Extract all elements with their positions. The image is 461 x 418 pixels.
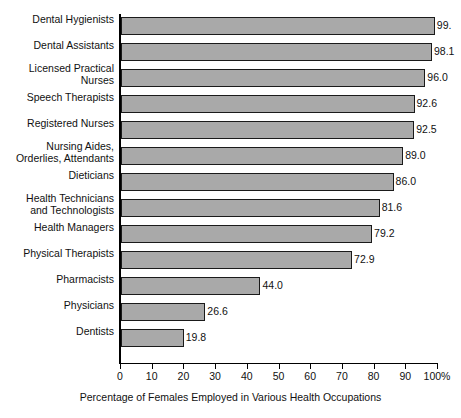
bar-row: Health Managers79.2: [0, 222, 461, 248]
x-tick-label: 90: [399, 370, 411, 383]
x-tick-label: 20: [178, 370, 190, 383]
category-label: Dieticians: [0, 170, 114, 182]
bar-row: Nursing Aides, Orderlies, Attendants89.0: [0, 144, 461, 170]
category-label: Health Managers: [0, 222, 114, 234]
x-tick-mark: [310, 363, 311, 369]
x-tick-label: 60: [304, 370, 316, 383]
x-axis-ticks: 0102030405060708090100%: [0, 363, 461, 393]
category-label: Dental Hygienists: [0, 14, 114, 26]
x-tick-mark: [279, 363, 280, 369]
category-label: Registered Nurses: [0, 118, 114, 130]
bar-value-label: 98.1: [434, 44, 454, 58]
category-label: Dental Assistants: [0, 40, 114, 52]
bar-value-label: 96.0: [427, 70, 447, 84]
x-tick-mark: [152, 363, 153, 369]
bar: [121, 251, 352, 269]
category-label: Health Technicians and Technologists: [0, 193, 114, 216]
bar: [121, 69, 425, 87]
x-axis-title: Percentage of Females Employed in Variou…: [0, 391, 461, 403]
x-tick-mark: [342, 363, 343, 369]
x-tick-label: 30: [209, 370, 221, 383]
bar: [121, 121, 414, 139]
bar-row: Health Technicians and Technologists81.6: [0, 196, 461, 222]
bar-row: Licensed Practical Nurses96.0: [0, 66, 461, 92]
bar-row: Physical Therapists72.9: [0, 248, 461, 274]
bar-value-label: 44.0: [262, 278, 282, 292]
category-label: Dentists: [0, 326, 114, 338]
x-tick-label: 100%: [424, 370, 451, 383]
bar-value-label: 99.: [437, 18, 452, 32]
bar: [121, 329, 184, 347]
bar-value-label: 92.5: [416, 122, 436, 136]
bar: [121, 303, 205, 321]
bar-row: Dentists19.8: [0, 326, 461, 352]
category-label: Physical Therapists: [0, 248, 114, 260]
bar-value-label: 89.0: [405, 148, 425, 162]
bar-chart: Dental Hygienists99.Dental Assistants98.…: [0, 0, 461, 418]
bar: [121, 173, 394, 191]
x-tick-mark: [374, 363, 375, 369]
category-label: Pharmacists: [0, 274, 114, 286]
x-tick-mark: [247, 363, 248, 369]
category-label: Licensed Practical Nurses: [0, 63, 114, 86]
bar: [121, 147, 403, 165]
bar: [121, 225, 372, 243]
category-label: Speech Therapists: [0, 92, 114, 104]
bar-row: Dental Hygienists99.: [0, 14, 461, 40]
x-tick-label: 80: [368, 370, 380, 383]
bar-value-label: 86.0: [396, 174, 416, 188]
x-tick-label: 70: [336, 370, 348, 383]
bar: [121, 95, 415, 113]
category-label: Physicians: [0, 300, 114, 312]
x-tick-label: 0: [117, 370, 123, 383]
bar-value-label: 81.6: [382, 200, 402, 214]
bar: [121, 17, 435, 35]
x-tick-label: 40: [241, 370, 253, 383]
bar-row: Pharmacists44.0: [0, 274, 461, 300]
bar-value-label: 92.6: [417, 96, 437, 110]
x-tick-mark: [437, 363, 438, 369]
x-tick-label: 50: [273, 370, 285, 383]
bar: [121, 43, 432, 61]
x-tick-mark: [215, 363, 216, 369]
bar: [121, 199, 380, 217]
x-tick-label: 10: [146, 370, 158, 383]
bar-row: Speech Therapists92.6: [0, 92, 461, 118]
category-label: Nursing Aides, Orderlies, Attendants: [0, 141, 114, 164]
bar: [121, 277, 260, 295]
bar-value-label: 19.8: [186, 330, 206, 344]
bar-value-label: 79.2: [374, 226, 394, 240]
bar-row: Physicians26.6: [0, 300, 461, 326]
bar-value-label: 72.9: [354, 252, 374, 266]
x-tick-mark: [120, 363, 121, 369]
x-tick-mark: [183, 363, 184, 369]
x-tick-mark: [405, 363, 406, 369]
bar-value-label: 26.6: [207, 304, 227, 318]
